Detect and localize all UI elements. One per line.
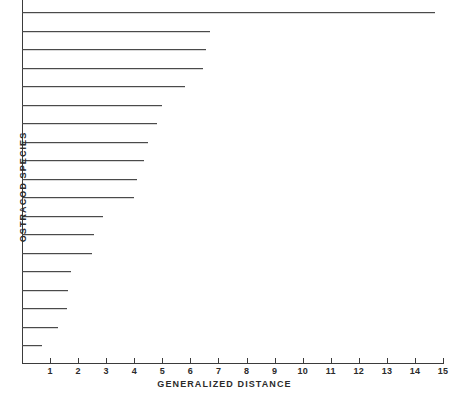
x-tick-13 [387, 358, 388, 364]
x-tick-label-3: 3 [94, 366, 118, 376]
x-tick-label-14: 14 [403, 366, 427, 376]
x-tick-11 [331, 358, 332, 364]
bar-13 [22, 234, 94, 235]
x-tick-8 [247, 358, 248, 364]
x-tick-14 [415, 358, 416, 364]
x-tick-label-11: 11 [319, 366, 343, 376]
bar-3 [22, 49, 206, 50]
bar-16 [22, 290, 68, 291]
x-tick-3 [106, 358, 107, 364]
bar-15 [22, 271, 71, 272]
x-tick-6 [190, 358, 191, 364]
x-tick-label-2: 2 [66, 366, 90, 376]
x-tick-label-10: 10 [291, 366, 315, 376]
x-tick-label-9: 9 [263, 366, 287, 376]
bar-5 [22, 86, 185, 87]
bar-14 [22, 253, 92, 254]
bar-12 [22, 216, 103, 217]
x-tick-12 [359, 358, 360, 364]
x-tick-label-13: 13 [375, 366, 399, 376]
x-tick-1 [50, 358, 51, 364]
x-tick-15 [443, 358, 444, 364]
x-tick-label-1: 1 [38, 366, 62, 376]
bar-10 [22, 179, 137, 180]
x-tick-label-4: 4 [122, 366, 146, 376]
bar-7 [22, 123, 157, 124]
x-tick-2 [78, 358, 79, 364]
x-axis-line [22, 363, 443, 364]
bar-2 [22, 31, 210, 32]
bar-9 [22, 160, 144, 161]
bar-6 [22, 105, 162, 106]
y-axis-title: OSTRACOD SPECIES [18, 112, 28, 262]
x-tick-label-15: 15 [431, 366, 449, 376]
x-tick-label-7: 7 [206, 366, 230, 376]
bar-8 [22, 142, 148, 143]
bar-4 [22, 68, 203, 69]
bar-18 [22, 327, 58, 328]
x-tick-7 [218, 358, 219, 364]
x-axis-title: GENERALIZED DISTANCE [0, 379, 449, 389]
x-tick-label-12: 12 [347, 366, 371, 376]
x-tick-4 [134, 358, 135, 364]
x-tick-5 [162, 358, 163, 364]
x-tick-label-8: 8 [235, 366, 259, 376]
bar-11 [22, 197, 134, 198]
generalized-distance-dendrogram-chart: GENERALIZED DISTANCE OSTRACOD SPECIES 12… [0, 0, 449, 397]
x-tick-9 [275, 358, 276, 364]
bar-19 [22, 345, 42, 346]
bar-17 [22, 308, 67, 309]
x-tick-label-5: 5 [150, 366, 174, 376]
x-tick-10 [303, 358, 304, 364]
x-tick-label-6: 6 [178, 366, 202, 376]
plot-area [22, 0, 443, 363]
bar-1 [22, 12, 435, 13]
